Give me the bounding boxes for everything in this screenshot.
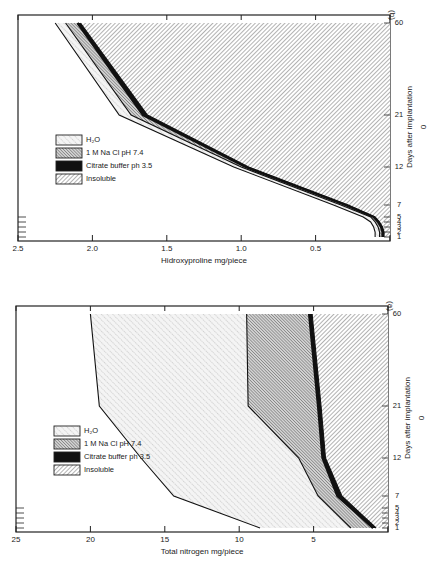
x-tick-label: 7 [397,200,401,209]
panel-b-plot: 00.51.01.52.02.5123457122160 [12,15,428,253]
legend-swatch [56,174,82,184]
panel-a: 0510152025123457122160 H₂O1 M Na Cl pH 7… [12,301,427,556]
x-tick-label: 12 [395,162,403,171]
legend-swatch [56,161,82,171]
y-tick-label: 10 [235,535,244,544]
legend-label: Citrate buffer ph 3.5 [86,161,152,170]
legend-swatch [54,452,80,462]
panel-b-label: (b) [388,10,397,20]
legend-label: Insoluble [84,465,114,474]
legend-label: 1 M Na Cl pH 7.4 [86,148,144,157]
x-tick-label: 5 [397,212,401,221]
legend-swatch [56,135,82,145]
panel-b-ylabel: Hidroxyproline mg/piece [161,256,247,265]
panel-b-legend: H₂O1 M Na Cl pH 7.4Citrate buffer ph 3.5… [56,135,152,184]
x-tick-label: 21 [395,110,403,119]
x-tick-label: 7 [395,491,399,500]
y-tick-label: 5 [311,535,316,544]
panel-a-label: (a) [386,301,395,311]
panel-a-ylabel: Total nitrogen mg/piece [161,547,244,556]
legend-swatch [56,148,82,158]
y-tick-label: 25 [12,535,21,544]
y-tick-label: 1.5 [161,244,173,253]
panel-b: 00.51.01.52.02.5123457122160 H₂O1 M Na C… [12,10,428,265]
x-tick-label: 12 [393,453,401,462]
legend-label: H₂O [86,135,100,144]
legend-label: 1 M Na Cl pH 7.4 [84,439,142,448]
x-tick-label: 5 [395,503,399,512]
legend-swatch [54,426,80,436]
panel-b-xlabel: Days after implantation [405,86,414,168]
y-tick-label: 15 [160,535,169,544]
legend-label: H₂O [84,426,98,435]
panel-a-xlabel: Days after implantation [403,377,412,459]
panel-a-plot: 0510152025123457122160 [12,306,427,544]
legend-label: Insoluble [86,174,116,183]
y-tick-label: 2.0 [87,244,99,253]
y-tick-label: 2.5 [12,244,24,253]
x-tick-label: 21 [393,401,401,410]
y-tick-label: 1.0 [236,244,248,253]
legend-swatch [54,439,80,449]
y-tick-label: 20 [86,535,95,544]
y-tick-label: 0 [419,124,428,129]
legend-label: Citrate buffer ph 3.5 [84,452,150,461]
y-tick-label: 0 [417,415,426,420]
y-tick-label: 0.5 [310,244,322,253]
legend-swatch [54,465,80,475]
figure: 00.51.01.52.02.5123457122160 H₂O1 M Na C… [0,0,429,578]
